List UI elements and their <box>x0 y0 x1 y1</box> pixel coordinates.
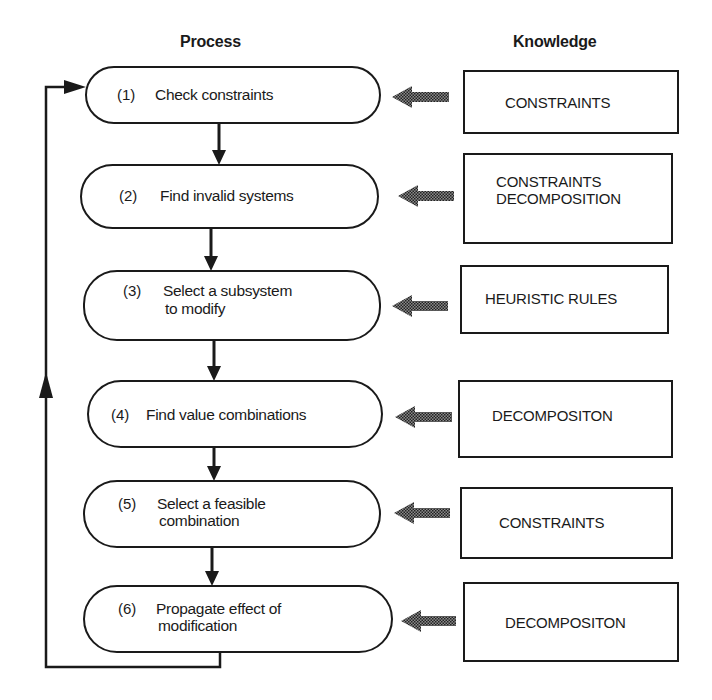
step-number: (2) <box>119 187 137 204</box>
knowledge-label: CONSTRAINTS <box>496 173 601 190</box>
step-number: (5) <box>118 495 136 512</box>
process-step-3: (3) Select a subsystem to modify <box>83 270 381 341</box>
shaded-left-arrow-icon <box>394 502 450 524</box>
process-step-2: (2) Find invalid systems <box>80 164 379 229</box>
knowledge-label: DECOMPOSITON <box>492 407 613 424</box>
process-step-6: (6) Propagate effect of modification <box>83 585 393 653</box>
step-number: (3) <box>123 282 141 299</box>
knowledge-box-2: CONSTRAINTS DECOMPOSITION <box>463 153 673 244</box>
knowledge-label: HEURISTIC RULES <box>485 290 617 307</box>
step-label: Check constraints <box>155 86 273 103</box>
step-label: Find value combinations <box>146 406 306 423</box>
down-arrow-icon <box>204 228 218 271</box>
step-number: (1) <box>117 86 135 103</box>
knowledge-box-1: CONSTRAINTS <box>463 70 679 134</box>
step-number: (6) <box>118 600 136 617</box>
down-arrow-icon <box>207 447 221 481</box>
knowledge-label-line2: DECOMPOSITION <box>496 190 621 207</box>
step-label: Select a feasible <box>157 495 266 512</box>
shaded-left-arrow-icon <box>392 86 449 108</box>
step-label: Select a subsystem <box>163 282 292 299</box>
process-step-1: (1) Check constraints <box>85 66 381 124</box>
knowledge-box-3: HEURISTIC RULES <box>460 265 669 334</box>
knowledge-box-4: DECOMPOSITON <box>458 380 673 458</box>
shaded-left-arrow-icon <box>392 295 448 317</box>
shaded-left-arrow-icon <box>398 185 454 207</box>
step-number: (4) <box>111 406 129 423</box>
knowledge-box-6: DECOMPOSITON <box>463 582 679 662</box>
shaded-left-arrow-icon <box>401 610 456 632</box>
down-arrow-icon <box>207 340 221 381</box>
shaded-left-arrow-icon <box>395 406 452 428</box>
step-label: Propagate effect of <box>156 600 281 617</box>
step-label-line2: combination <box>159 512 239 529</box>
knowledge-label: CONSTRAINTS <box>505 94 610 111</box>
down-arrow-icon <box>212 123 226 165</box>
knowledge-box-5: CONSTRAINTS <box>460 487 673 559</box>
knowledge-label: CONSTRAINTS <box>499 514 604 531</box>
down-arrow-icon <box>205 547 219 586</box>
step-label: Find invalid systems <box>160 187 294 204</box>
step-label-line2: modification <box>158 617 237 634</box>
step-label-line2: to modify <box>165 300 225 317</box>
process-step-4: (4) Find value combinations <box>87 380 383 448</box>
process-step-5: (5) Select a feasible combination <box>83 480 381 548</box>
knowledge-label: DECOMPOSITON <box>505 614 626 631</box>
